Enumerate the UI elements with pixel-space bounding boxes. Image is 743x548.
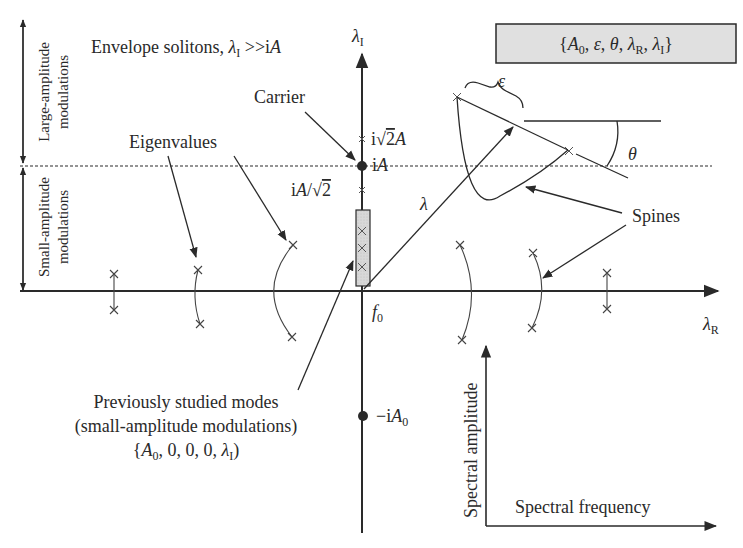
eigenvalues-label: Eigenvalues xyxy=(129,132,217,152)
soliton-spine-geometry xyxy=(453,82,661,200)
svg-text:(small-amplitude modulations): (small-amplitude modulations) xyxy=(75,416,297,437)
spectral-plane-diagram: {A0, ε, θ, λR, λI} Large-amplitude modul… xyxy=(0,0,743,548)
svg-text:iA/√2: iA/√2 xyxy=(291,180,331,200)
spines-label: Spines xyxy=(632,206,680,226)
spines-arrow-1 xyxy=(526,187,622,213)
origin-label: f0 xyxy=(372,302,383,325)
previous-modes-label: Previously studied modes (small-amplitud… xyxy=(75,392,297,463)
svg-text:i√2A: i√2A xyxy=(371,129,407,149)
svg-text:modulations: modulations xyxy=(55,190,71,264)
spine-2 xyxy=(194,266,204,328)
previous-modes-bar xyxy=(356,210,370,286)
eigenvalues-arrow-2 xyxy=(234,156,286,240)
spectral-inset: Spectral amplitude Spectral frequency xyxy=(461,346,716,526)
svg-text:{A0, 0, 0, 0, λI): {A0, 0, 0, 0, λI) xyxy=(133,440,239,463)
carrier-arrow xyxy=(305,112,355,160)
previous-modes-arrow xyxy=(298,261,353,390)
svg-text:−iA0: −iA0 xyxy=(376,406,408,429)
spectral-frequency-label: Spectral frequency xyxy=(515,497,650,517)
spines-arrow-2 xyxy=(543,225,626,278)
carrier-label: Carrier xyxy=(254,87,305,107)
envelope-solitons-label: Envelope solitons, λI >>iA xyxy=(91,37,282,60)
A-over-sqrt2-marker: iA/√2 xyxy=(291,180,365,200)
parameter-box: {A0, ε, θ, λR, λI} xyxy=(496,24,736,63)
svg-text:modulations: modulations xyxy=(55,55,71,129)
real-axis-label: λR xyxy=(702,314,719,337)
sqrt2A-marker: i√2A xyxy=(359,129,407,149)
small-amplitude-label: Small-amplitude modulations xyxy=(36,177,71,277)
svg-text:{A0, ε, θ, λR, λI}: {A0, ε, θ, λR, λI} xyxy=(559,34,673,57)
imag-axis-label: λI xyxy=(351,26,364,49)
epsilon-label: ε xyxy=(498,71,506,91)
svg-text:Small-amplitude: Small-amplitude xyxy=(36,177,52,277)
svg-text:Previously studied modes: Previously studied modes xyxy=(94,392,279,412)
eigenvalues-arrow-1 xyxy=(168,156,196,257)
lambda-label: λ xyxy=(419,194,428,214)
svg-text:iA: iA xyxy=(372,155,389,175)
spectral-amplitude-label: Spectral amplitude xyxy=(461,383,481,518)
neg-iA0-point: −iA0 xyxy=(358,406,408,429)
lambda-vector xyxy=(364,127,513,289)
theta-label: θ xyxy=(628,144,637,164)
spine-4 xyxy=(456,241,472,344)
svg-text:Large-amplitude: Large-amplitude xyxy=(36,42,52,142)
large-amplitude-label: Large-amplitude modulations xyxy=(36,42,71,142)
